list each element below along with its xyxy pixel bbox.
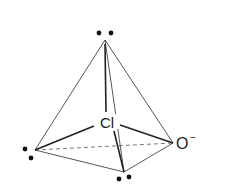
bond-cl-apex [105,44,106,112]
lone-pair-left [23,147,34,161]
oxygen-label: O [176,135,188,152]
central-atom-label: Cl [100,114,114,131]
edge-apex-bottom [105,40,124,172]
oxygen-charge: − [190,132,196,143]
lone-pair-apex [97,31,114,36]
bond-cl-left [35,126,94,150]
bond-cl-right [120,125,173,143]
chlorite-tetrahedral-diagram: Cl O − [0,0,226,192]
edge-left-right-dashed [35,143,173,150]
edge-left-bottom [35,150,124,172]
edge-apex-left [35,40,105,150]
lone-pair-bottom [117,175,132,182]
edge-bottom-right [124,143,173,172]
